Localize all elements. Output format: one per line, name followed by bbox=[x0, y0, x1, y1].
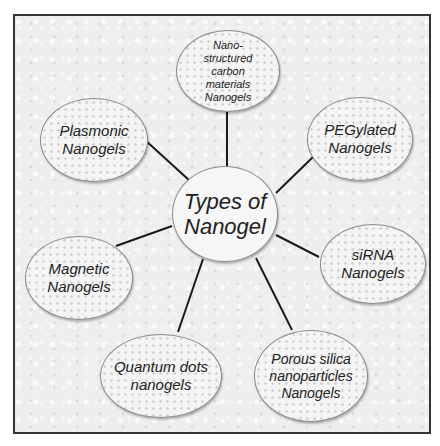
node-pegylated: PEGylated Nanogels bbox=[307, 97, 413, 181]
node-label: Magnetic Nanogels bbox=[47, 260, 110, 296]
node-label: Quantum dots nanogels bbox=[114, 358, 208, 394]
node-quantum-dots: Quantum dots nanogels bbox=[100, 334, 222, 418]
link-pegylated bbox=[276, 157, 313, 193]
link-porous-silica bbox=[256, 258, 292, 330]
node-porous-silica: Porous silica nanoparticles Nanogels bbox=[254, 330, 368, 422]
node-label: Plasmonic Nanogels bbox=[59, 122, 128, 158]
node-nanostructured-carbon: Nano- structured carbon materials Nanoge… bbox=[176, 30, 280, 112]
link-sirna bbox=[276, 235, 319, 257]
node-label: Porous silica nanoparticles Nanogels bbox=[269, 351, 352, 402]
node-label: PEGylated Nanogels bbox=[324, 121, 396, 157]
node-magnetic: Magnetic Nanogels bbox=[25, 236, 133, 320]
link-plasmonic bbox=[145, 140, 190, 181]
link-quantum-dots bbox=[178, 259, 203, 332]
center-node-types-of-nanogel: Types of Nanogel bbox=[172, 166, 278, 262]
node-label: Nano- structured carbon materials Nanoge… bbox=[204, 39, 253, 104]
node-plasmonic: Plasmonic Nanogels bbox=[40, 98, 148, 182]
link-magnetic bbox=[116, 226, 172, 246]
node-sirna: siRNA Nanogels bbox=[320, 224, 426, 304]
center-label: Types of Nanogel bbox=[184, 189, 267, 239]
node-label: siRNA Nanogels bbox=[341, 246, 404, 282]
